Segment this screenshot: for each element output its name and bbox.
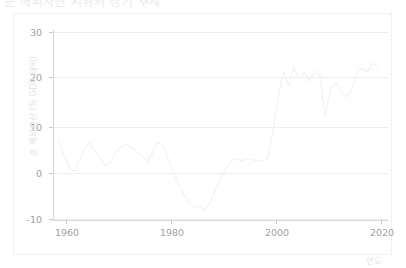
data-series-line (58, 63, 377, 210)
y-axis-label: 순 해외자산 (% GDP 대비) (26, 46, 38, 166)
y-tick-marks (49, 33, 53, 220)
ytick-label-0: 0 (16, 168, 42, 179)
x-axis-label: 연도 (366, 254, 382, 266)
ytick-label-30: 30 (16, 27, 42, 38)
chart-title-strip: 순 해외자산 지위의 장기 추세 (0, 0, 406, 13)
gridlines (53, 33, 388, 220)
xtick-label-2020: 2020 (360, 227, 404, 238)
xtick-label-1960: 1960 (45, 227, 89, 238)
plot-canvas: 30 20 10 0 -10 1960 1980 2000 2020 순 해외자… (13, 13, 392, 255)
xtick-label-2000: 2000 (255, 227, 299, 238)
xtick-label-1980: 1980 (150, 227, 194, 238)
plot-area (14, 14, 391, 254)
chart-figure: 순 해외자산 지위의 장기 추세 (0, 0, 406, 268)
chart-title: 순 해외자산 지위의 장기 추세 (4, 0, 161, 9)
ytick-label-neg10: -10 (16, 214, 42, 225)
